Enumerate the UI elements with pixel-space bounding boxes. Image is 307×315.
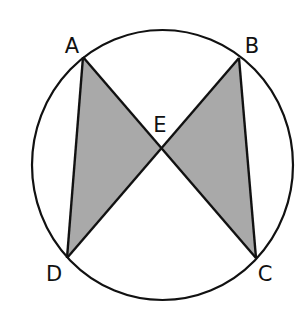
label-b: B xyxy=(245,34,259,58)
circle xyxy=(32,30,293,300)
label-d: D xyxy=(46,262,62,286)
label-e: E xyxy=(153,113,166,137)
circle-diagram: A B E D C xyxy=(0,0,307,315)
label-a: A xyxy=(65,34,80,58)
label-c: C xyxy=(258,262,273,286)
